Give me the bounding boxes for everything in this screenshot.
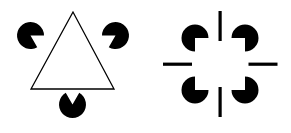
bar-right-horizontal [249, 63, 278, 66]
pacman-bottom-center [59, 93, 86, 118]
pacman-top-right [102, 22, 129, 49]
pacman-bottom-right [232, 77, 259, 104]
bar-top-vertical [219, 11, 222, 41]
pacman-bottom-left [182, 77, 209, 104]
figures-canvas [0, 0, 291, 133]
pacman-top-right [232, 25, 259, 52]
outlined-triangle-up [31, 12, 114, 89]
kanizsa-square [163, 11, 278, 117]
kanizsa-triangle [17, 12, 129, 118]
pacman-top-left [182, 25, 209, 52]
illusory-contour-figure-panel [0, 0, 291, 133]
bar-bottom-vertical [219, 87, 222, 117]
pacman-top-left [17, 22, 44, 49]
bar-left-horizontal [163, 63, 192, 66]
